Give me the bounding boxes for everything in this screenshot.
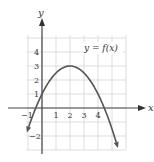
parabola-graph: x y −112341234−2 y = f(x)	[0, 0, 154, 162]
y-axis-arrow-icon	[39, 18, 45, 26]
y-tick-label: 2	[34, 76, 39, 85]
y-tick-label: −2	[29, 132, 41, 141]
x-tick-label: 1	[54, 111, 59, 120]
x-tick-label: 4	[96, 111, 101, 120]
y-tick-label: 3	[34, 62, 39, 71]
y-tick-label: 1	[34, 90, 39, 99]
x-axis-arrow-icon	[138, 105, 146, 111]
tick-labels: −112341234−2	[21, 48, 101, 141]
function-annotation: y = f(x)	[83, 43, 118, 53]
x-axis-label: x	[148, 102, 154, 113]
x-tick-label: 3	[82, 111, 87, 120]
y-axis-label: y	[37, 7, 44, 18]
x-tick-label: 2	[68, 111, 73, 120]
y-tick-label: 4	[34, 48, 39, 57]
curve-right-arrow-icon	[114, 142, 119, 148]
